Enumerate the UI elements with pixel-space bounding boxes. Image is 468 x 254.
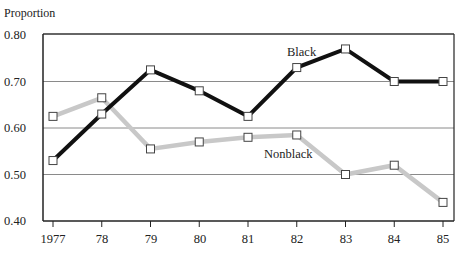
series-label-black: Black bbox=[287, 45, 316, 60]
data-point-black bbox=[147, 66, 155, 74]
x-tick-label: 80 bbox=[194, 232, 207, 247]
series-label-nonblack: Nonblack bbox=[264, 147, 313, 162]
data-point-black bbox=[195, 87, 203, 95]
data-point-nonblack bbox=[342, 171, 350, 179]
data-point-nonblack bbox=[98, 94, 106, 102]
data-point-nonblack bbox=[439, 198, 447, 206]
data-point-black bbox=[49, 157, 57, 165]
y-tick-label: 0.50 bbox=[4, 168, 38, 183]
data-point-black bbox=[390, 78, 398, 86]
y-tick-label: 0.60 bbox=[4, 121, 38, 136]
data-point-nonblack bbox=[390, 161, 398, 169]
y-tick-label: 0.80 bbox=[4, 28, 38, 43]
x-tick-label: 85 bbox=[437, 232, 450, 247]
series-line-black bbox=[53, 49, 443, 161]
data-point-nonblack bbox=[293, 131, 301, 139]
data-point-nonblack bbox=[49, 112, 57, 120]
data-point-black bbox=[293, 64, 301, 72]
y-tick-label: 0.70 bbox=[4, 75, 38, 90]
x-tick-label: 84 bbox=[388, 232, 401, 247]
data-point-nonblack bbox=[147, 145, 155, 153]
data-point-nonblack bbox=[195, 138, 203, 146]
data-point-black bbox=[439, 78, 447, 86]
x-tick-label: 82 bbox=[291, 232, 304, 247]
data-point-nonblack bbox=[244, 133, 252, 141]
x-tick-label: 81 bbox=[242, 232, 255, 247]
y-tick-label: 0.40 bbox=[4, 214, 38, 229]
line-chart bbox=[0, 0, 468, 254]
data-point-black bbox=[244, 112, 252, 120]
data-point-black bbox=[98, 110, 106, 118]
x-tick-label: 78 bbox=[96, 232, 109, 247]
x-tick-label: 79 bbox=[145, 232, 158, 247]
x-tick-label: 1977 bbox=[41, 232, 66, 247]
data-point-black bbox=[342, 45, 350, 53]
x-tick-label: 83 bbox=[340, 232, 353, 247]
y-axis-label: Proportion bbox=[4, 6, 55, 21]
